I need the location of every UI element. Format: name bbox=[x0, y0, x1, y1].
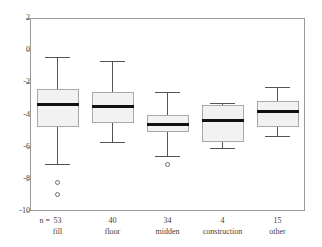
lower-whisker-cap bbox=[45, 164, 70, 165]
upper-whisker-line bbox=[112, 61, 113, 92]
lower-whisker-line bbox=[112, 123, 113, 142]
boxplot-fill bbox=[33, 18, 83, 211]
lower-whisker-cap bbox=[265, 136, 290, 137]
upper-whisker-cap bbox=[265, 87, 290, 88]
median-line bbox=[37, 103, 79, 106]
lower-whisker-cap bbox=[100, 142, 125, 143]
boxplot-floor bbox=[88, 18, 138, 211]
boxplot-other bbox=[253, 18, 303, 211]
outlier-point bbox=[55, 192, 60, 197]
y-tick-mark bbox=[26, 82, 30, 83]
outlier-point bbox=[55, 180, 60, 185]
box-iqr bbox=[37, 89, 79, 127]
outlier-point bbox=[165, 162, 170, 167]
upper-whisker-cap bbox=[45, 57, 70, 58]
x-count-other: 15 bbox=[242, 215, 314, 226]
y-axis: 20-2-4-6-8-10 bbox=[0, 0, 30, 247]
upper-whisker-line bbox=[277, 87, 278, 101]
y-tick-mark bbox=[26, 50, 30, 51]
lower-whisker-line bbox=[57, 127, 58, 165]
x-axis: n = 53fill40floor34midden4construction15… bbox=[0, 211, 322, 247]
upper-whisker-line bbox=[57, 57, 58, 88]
box-iqr bbox=[202, 105, 244, 142]
upper-whisker-cap bbox=[155, 92, 180, 93]
y-tick-mark bbox=[26, 147, 30, 148]
y-tick-mark bbox=[26, 179, 30, 180]
median-line bbox=[92, 105, 134, 108]
y-tick-mark bbox=[26, 18, 30, 19]
boxplot-construction bbox=[198, 18, 248, 211]
upper-whisker-cap bbox=[100, 61, 125, 62]
lower-whisker-line bbox=[277, 127, 278, 137]
boxplot-midden bbox=[143, 18, 193, 211]
median-line bbox=[147, 123, 189, 126]
x-category-other: other bbox=[242, 226, 314, 237]
lower-whisker-line bbox=[167, 132, 168, 155]
median-line bbox=[257, 110, 299, 113]
x-group-label-other: 15other bbox=[242, 215, 314, 237]
median-line bbox=[202, 119, 244, 122]
lower-whisker-cap bbox=[155, 156, 180, 157]
upper-whisker-line bbox=[167, 92, 168, 115]
lower-whisker-cap bbox=[210, 148, 235, 149]
boxplot-figure: 20-2-4-6-8-10 n = 53fill40floor34midden4… bbox=[0, 0, 322, 247]
box-iqr bbox=[257, 101, 299, 127]
y-tick-mark bbox=[26, 115, 30, 116]
